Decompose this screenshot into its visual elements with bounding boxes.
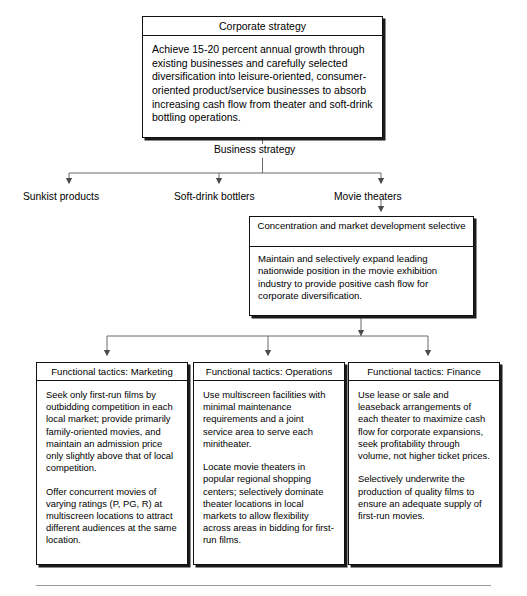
- strategy-flowchart-diagram: Corporate strategy Achieve 15-20 percent…: [0, 0, 527, 596]
- corporate-strategy-text: Achieve 15-20 percent annual growth thro…: [152, 43, 373, 125]
- functional-tactics-finance-box: Functional tactics: Finance Use lease or…: [348, 362, 500, 565]
- functional-tactics-marketing-box: Functional tactics: Marketing Seek only …: [36, 362, 188, 565]
- operations-title: Functional tactics: Operations: [194, 363, 344, 381]
- corporate-strategy-body: Achieve 15-20 percent annual growth thro…: [143, 36, 382, 131]
- functional-tactics-operations-box: Functional tactics: Operations Use multi…: [193, 362, 345, 565]
- marketing-body: Seek only first-run films by outbidding …: [37, 381, 187, 553]
- marketing-paragraph-2: Offer concurrent movies of varying ratin…: [46, 486, 178, 547]
- marketing-title: Functional tactics: Marketing: [37, 363, 187, 381]
- marketing-paragraph-1: Seek only first-run films by outbidding …: [46, 389, 178, 475]
- concentration-title: Concentration and market development sel…: [250, 217, 473, 247]
- finance-title: Functional tactics: Finance: [349, 363, 499, 381]
- finance-paragraph-2: Selectively underwrite the production of…: [358, 473, 490, 522]
- concentration-text: Maintain and selectively expand leading …: [258, 253, 465, 303]
- corporate-strategy-box: Corporate strategy Achieve 15-20 percent…: [142, 16, 383, 138]
- operations-body: Use multiscreen facilities with minimal …: [194, 381, 344, 553]
- finance-body: Use lease or sale and leaseback arrangem…: [349, 381, 499, 528]
- concentration-body: Maintain and selectively expand leading …: [250, 247, 473, 309]
- operations-paragraph-1: Use multiscreen facilities with minimal …: [203, 389, 335, 450]
- corporate-strategy-title: Corporate strategy: [143, 17, 382, 36]
- concentration-market-development-box: Concentration and market development sel…: [249, 216, 474, 316]
- business-strategy-label: Business strategy: [214, 144, 295, 155]
- branch-label-movie-theaters: Movie theaters: [334, 191, 402, 202]
- finance-paragraph-1: Use lease or sale and leaseback arrangem…: [358, 389, 490, 462]
- footer-divider: [36, 585, 491, 586]
- operations-paragraph-2: Locate movie theaters in popular regiona…: [203, 461, 335, 547]
- branch-label-sunkist-products: Sunkist products: [23, 191, 99, 202]
- branch-label-soft-drink-bottlers: Soft-drink bottlers: [174, 191, 255, 202]
